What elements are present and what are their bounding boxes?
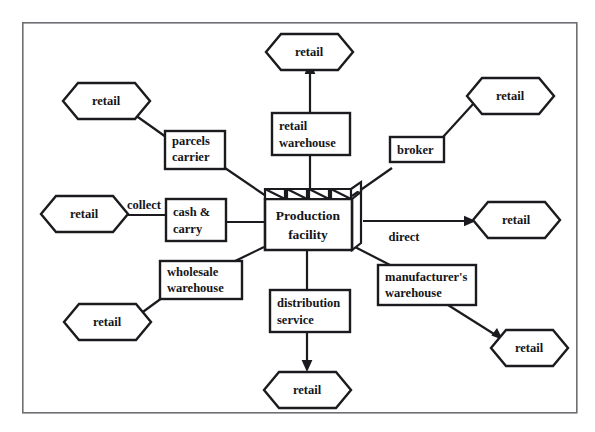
node-retail-bottom-left[interactable]: retail xyxy=(64,304,151,340)
node-wholesale-warehouse[interactable]: wholesale warehouse xyxy=(160,261,242,299)
parcels-carrier-label-line1: parcels xyxy=(172,134,210,148)
node-retail-right[interactable]: retail xyxy=(473,202,560,238)
node-retail-left[interactable]: retail xyxy=(41,196,128,232)
retail-top-right-label: retail xyxy=(496,89,525,103)
node-parcels-carrier[interactable]: parcels carrier xyxy=(165,131,225,169)
cash-and-carry-label-line1: cash & xyxy=(173,205,210,219)
node-manufacturers-warehouse[interactable]: manufacturer's warehouse xyxy=(378,265,476,305)
distribution-service-label-line1: distribution xyxy=(277,296,340,310)
edge-label-direct: direct xyxy=(388,230,420,244)
retail-bottom-right-label: retail xyxy=(515,341,544,355)
wholesale-warehouse-label-line1: wholesale xyxy=(167,265,219,279)
retail-warehouse-label-line2: warehouse xyxy=(279,136,336,150)
manufacturers-warehouse-label-line1: manufacturer's xyxy=(385,270,468,284)
cash-and-carry-label-line2: carry xyxy=(173,222,203,236)
retail-bottom-label: retail xyxy=(293,383,322,397)
retail-top-left-label: retail xyxy=(92,94,121,108)
wholesale-warehouse-label-line2: warehouse xyxy=(167,281,224,295)
edge-label-collect: collect xyxy=(127,198,162,212)
production-facility-label-line2: facility xyxy=(288,227,328,242)
manufacturers-warehouse-label-line2: warehouse xyxy=(385,286,442,300)
node-cash-and-carry[interactable]: cash & carry xyxy=(166,199,226,241)
broker-label: broker xyxy=(397,143,434,157)
node-retail-bottom-right[interactable]: retail xyxy=(491,330,568,366)
retail-left-label: retail xyxy=(70,207,99,221)
node-retail-top[interactable]: retail xyxy=(266,34,353,70)
distribution-service-label-line2: service xyxy=(277,313,314,327)
node-retail-top-left[interactable]: retail xyxy=(63,83,150,119)
node-distribution-service[interactable]: distribution service xyxy=(270,290,350,332)
retail-warehouse-label-line1: retail xyxy=(279,119,308,133)
node-broker[interactable]: broker xyxy=(390,137,444,162)
distribution-channel-diagram: retail retail retail retail retail retai… xyxy=(0,0,595,432)
production-facility-label-line1: Production xyxy=(276,208,341,223)
retail-right-label: retail xyxy=(502,213,531,227)
retail-top-label: retail xyxy=(295,45,324,59)
node-retail-top-right[interactable]: retail xyxy=(467,78,554,114)
node-retail-bottom[interactable]: retail xyxy=(264,372,351,408)
node-production-facility[interactable]: Production facility xyxy=(265,182,361,250)
retail-bottom-left-label: retail xyxy=(93,315,122,329)
node-retail-warehouse[interactable]: retail warehouse xyxy=(272,113,350,155)
diagram-page: retail retail retail retail retail retai… xyxy=(0,0,595,432)
parcels-carrier-label-line2: carrier xyxy=(172,150,210,164)
